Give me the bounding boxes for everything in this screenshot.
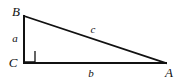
vertex-label-c: C	[9, 56, 18, 69]
right-triangle-figure: B C A a b c	[0, 0, 177, 83]
side-label-a: a	[12, 33, 18, 44]
side-label-b: b	[88, 68, 94, 79]
right-angle-marker-icon	[24, 51, 35, 62]
vertex-label-a: A	[165, 66, 173, 79]
vertex-label-b: B	[12, 5, 20, 18]
side-label-c: c	[91, 24, 96, 35]
